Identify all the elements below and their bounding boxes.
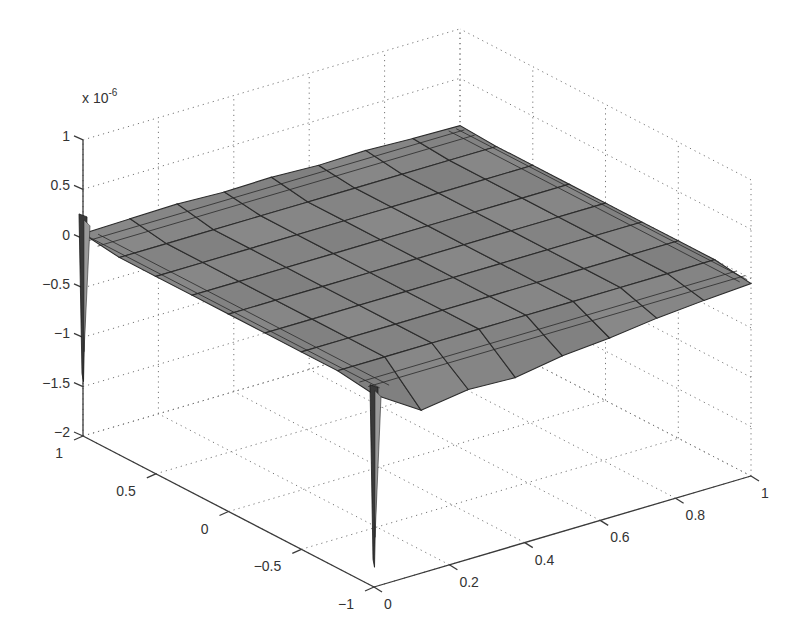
grid-line-floor-y	[229, 401, 606, 512]
z-tick-label: 0	[62, 227, 70, 243]
surface	[79, 126, 751, 568]
y-tick-label: 1	[55, 445, 63, 461]
x-tick-label: 0.8	[686, 507, 706, 523]
x-tick	[525, 543, 533, 548]
z-tick	[74, 432, 83, 436]
x-tick	[600, 520, 608, 525]
x-tick-label: 0.2	[459, 574, 479, 590]
y-tick	[292, 549, 301, 553]
z-tick	[74, 136, 83, 140]
x-tick	[449, 565, 457, 570]
z-tick-label: −1	[54, 325, 70, 341]
z-tick	[74, 185, 83, 189]
z-tick-label: −0.5	[42, 276, 70, 292]
z-tick-label: −2	[54, 424, 70, 440]
x-axis-line	[374, 476, 751, 587]
x-tick-label: 0.4	[535, 552, 555, 568]
x-tick-label: 0.6	[610, 529, 630, 545]
y-tick	[365, 587, 374, 591]
x-tick-label: 0	[384, 596, 392, 612]
y-tick-label: 0.5	[116, 483, 136, 499]
z-scale-base: x 10	[82, 90, 109, 106]
y-tick-label: −1	[338, 596, 354, 612]
surface-spike-facet	[84, 220, 90, 352]
z-scale-exponent: -6	[108, 87, 117, 98]
y-tick	[147, 474, 156, 478]
y-tick-label: −0.5	[254, 558, 282, 574]
z-tick	[74, 383, 83, 387]
y-tick	[220, 512, 229, 516]
y-tick-label: 0	[201, 521, 209, 537]
z-tick-label: −1.5	[42, 375, 70, 391]
surface-spike-facet	[375, 391, 381, 538]
x-tick	[676, 498, 684, 503]
z-tick-label: 1	[62, 128, 70, 144]
y-tick	[74, 436, 83, 440]
z-scale-label: x 10-6	[82, 87, 118, 106]
x-tick	[751, 476, 759, 481]
x-tick-label: 1	[761, 485, 769, 501]
grid-line-backwall-z	[83, 29, 460, 140]
x-tick	[374, 587, 382, 592]
surface-plot: −2−1.5−1−0.500.51−1−0.500.5100.20.40.60.…	[0, 0, 809, 640]
z-tick-label: 0.5	[51, 177, 71, 193]
